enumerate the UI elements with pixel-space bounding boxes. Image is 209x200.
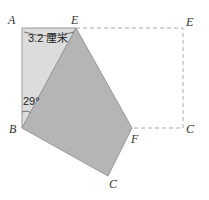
label-e-original: E <box>185 15 194 29</box>
label-c-original: C <box>186 122 195 136</box>
label-f: F <box>130 132 139 146</box>
measure-ae-text: 3.2 厘米 <box>28 32 68 44</box>
label-c-folded: C <box>109 177 118 191</box>
label-a: A <box>7 13 16 27</box>
label-b: B <box>9 122 17 136</box>
angle-b-text: 29° <box>23 95 40 107</box>
folded-rectangle-diagram: A E E B C F C 3.2 厘米 29° <box>0 0 209 200</box>
label-e: E <box>70 13 79 27</box>
